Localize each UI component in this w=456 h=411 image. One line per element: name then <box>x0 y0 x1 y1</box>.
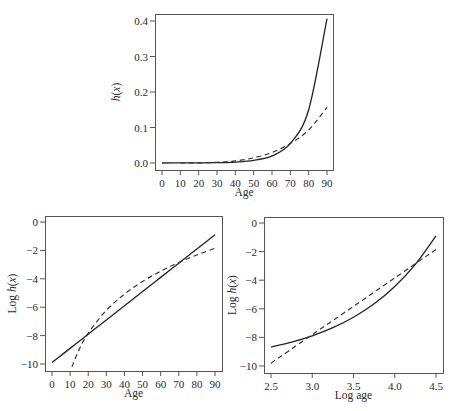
plot-frame <box>265 218 444 374</box>
y-tick-label: −6 <box>245 303 257 315</box>
solid-curve <box>52 235 215 363</box>
y-axis: 0−2−4−6−8−10 <box>240 217 264 372</box>
x-tick-label: 60 <box>267 177 279 189</box>
y-tick-label: 0.0 <box>134 157 148 169</box>
y-axis: 0.00.10.20.30.4 <box>134 15 155 169</box>
dashed-curve <box>271 249 436 363</box>
x-tick-label: 80 <box>191 378 203 390</box>
x-tick-label: 0 <box>49 378 55 390</box>
x-tick-label: 80 <box>303 177 315 189</box>
x-tick-label: 70 <box>285 177 297 189</box>
y-tick-label: −10 <box>21 358 39 370</box>
y-tick-label: −4 <box>245 274 257 286</box>
x-tick-label: 30 <box>101 378 113 390</box>
dashed-curve <box>72 248 215 367</box>
x-tick-label: 20 <box>83 378 95 390</box>
x-tick-label: 3.0 <box>305 380 319 392</box>
y-tick-label: 0 <box>33 216 39 228</box>
x-tick-label: 90 <box>322 177 334 189</box>
x-tick-label: 0 <box>159 177 165 189</box>
y-tick-label: 0.1 <box>134 122 148 134</box>
x-tick-label: 4.0 <box>388 380 402 392</box>
x-tick-label: 10 <box>175 177 187 189</box>
plot-frame <box>46 217 223 372</box>
series-group <box>162 19 327 163</box>
x-axis-label: Age <box>124 387 143 400</box>
y-tick-label: −6 <box>26 301 38 313</box>
y-tick-label: −2 <box>245 246 257 258</box>
solid-curve <box>271 236 436 347</box>
x-axis-label: Log age <box>335 389 372 402</box>
x-tick-label: 2.5 <box>264 380 278 392</box>
x-tick-label: 90 <box>210 378 222 390</box>
y-axis: 0−2−4−6−8−10 <box>21 216 45 370</box>
x-tick-label: 20 <box>193 177 205 189</box>
y-axis-label: h(x) <box>110 83 123 102</box>
y-tick-label: 0.3 <box>134 51 148 63</box>
series-group <box>271 236 436 363</box>
plot-frame <box>156 15 334 171</box>
y-tick-label: −4 <box>26 273 38 285</box>
x-tick-label: 30 <box>212 177 224 189</box>
y-tick-label: −8 <box>26 330 38 342</box>
dashed-curve <box>180 107 327 163</box>
chart-panel-log-hazard-vs-log-age: 2.53.03.54.04.50−2−4−6−8−10Log ageLog h(… <box>226 217 444 402</box>
series-group <box>52 235 215 367</box>
chart-panel-log-hazard-vs-age: 01020304050607080900−2−4−6−8−10AgeLog h(… <box>6 216 223 400</box>
chart-panel-hazard-vs-age: 01020304050607080900.00.10.20.30.4Ageh(x… <box>110 15 334 200</box>
y-tick-label: −8 <box>245 331 257 343</box>
y-tick-label: 0.2 <box>134 86 148 98</box>
figure: 01020304050607080900.00.10.20.30.4Ageh(x… <box>0 0 456 411</box>
y-tick-label: −10 <box>240 360 258 372</box>
solid-curve <box>162 19 327 163</box>
y-tick-label: −2 <box>26 244 38 256</box>
y-tick-label: 0 <box>252 217 258 229</box>
x-tick-label: 60 <box>155 378 167 390</box>
y-axis-label: Log h(x) <box>226 275 239 315</box>
x-axis-label: Age <box>234 186 253 199</box>
y-tick-label: 0.4 <box>134 15 148 27</box>
y-axis-label: Log h(x) <box>6 273 19 313</box>
x-tick-label: 70 <box>173 378 185 390</box>
x-tick-label: 10 <box>65 378 77 390</box>
x-tick-label: 4.5 <box>429 380 443 392</box>
